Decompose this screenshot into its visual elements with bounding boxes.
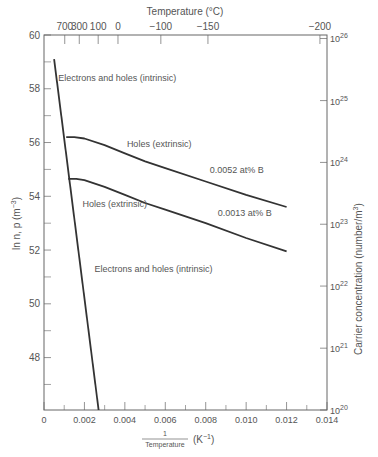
curve-annotation: Holes (extrinsic) [82, 199, 147, 209]
top-tick-label: −150 [197, 21, 220, 32]
x-tick-label: 0.014 [316, 415, 339, 425]
top-tick-label: 0 [115, 21, 121, 32]
x-tick-label: 0 [41, 415, 46, 425]
right-tick-label: 1020 [330, 404, 348, 416]
y-tick-label: 48 [29, 352, 41, 363]
top-tick-label: −200 [309, 21, 332, 32]
series-line [54, 59, 99, 410]
x-tick-label: 0.002 [73, 415, 96, 425]
right-tick-label: 1022 [330, 280, 348, 292]
right-tick-label: 1023 [330, 218, 348, 230]
svg-text:(K−1): (K−1) [193, 433, 214, 445]
right-axis-title: Carrier concentration (number/m3) [352, 203, 364, 355]
plot-border [44, 35, 327, 410]
y-axis-title: ln n, p (m−3) [10, 197, 22, 250]
data-curves: Electrons and holes (intrinsic)Holes (ex… [54, 59, 287, 410]
curve-annotation: Electrons and holes (intrinsic) [58, 73, 176, 83]
top-axis-title: Temperature (°C) [147, 6, 224, 17]
svg-text:1: 1 [163, 430, 167, 437]
top-tick-label: −100 [150, 21, 173, 32]
right-tick-label: 1026 [330, 32, 348, 44]
x-tick-label: 0.004 [114, 415, 137, 425]
right-tick-label: 1021 [330, 342, 348, 354]
svg-text:Temperature: Temperature [145, 441, 184, 449]
y-tick-label: 50 [29, 298, 41, 309]
top-tick-label: 300 [71, 21, 88, 32]
y-tick-label: 60 [29, 30, 41, 41]
carrier-concentration-chart: 00.0020.0040.0060.0080.0100.0120.0144850… [0, 0, 378, 457]
curve-annotation: 0.0052 at% B [210, 165, 264, 175]
top-tick-label: 100 [90, 21, 107, 32]
right-tick-label: 1025 [330, 95, 348, 107]
x-tick-label: 0.010 [235, 415, 258, 425]
x-tick-label: 0.012 [275, 415, 298, 425]
curve-annotation: Electrons and holes (intrinsic) [95, 264, 213, 274]
y-tick-label: 52 [29, 245, 41, 256]
x-tick-label: 0.006 [154, 415, 177, 425]
y-tick-label: 56 [29, 137, 41, 148]
curve-annotation: 0.0013 at% B [218, 208, 272, 218]
x-axis-title: 1 Temperature (K−1) [142, 430, 214, 449]
curve-annotation: Holes (extrinsic) [127, 139, 192, 149]
right-tick-label: 1024 [330, 156, 348, 168]
y-tick-label: 58 [29, 83, 41, 94]
y-tick-label: 54 [29, 191, 41, 202]
x-tick-label: 0.008 [194, 415, 217, 425]
